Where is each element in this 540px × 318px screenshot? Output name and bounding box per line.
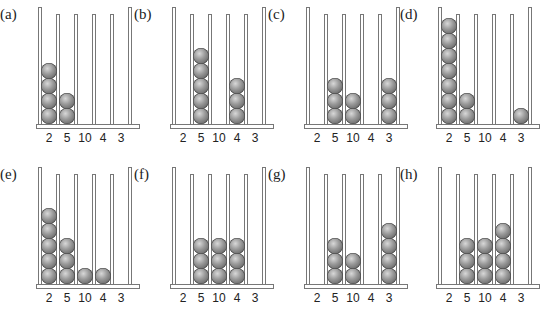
column-label: 4 xyxy=(361,291,381,305)
bead xyxy=(381,108,397,124)
bead xyxy=(41,78,57,94)
abacus-rack: 251043 xyxy=(170,160,274,315)
bead xyxy=(459,268,475,284)
bead xyxy=(59,93,75,109)
abacus-base xyxy=(436,284,540,289)
column-label: 2 xyxy=(307,131,327,145)
abacus-post xyxy=(324,14,328,125)
column-label: 10 xyxy=(343,291,363,305)
bead xyxy=(59,238,75,254)
bead xyxy=(193,268,209,284)
abacus-panel: (c)251043 xyxy=(268,0,403,155)
panel-label: (b) xyxy=(134,6,152,23)
bead xyxy=(477,253,493,269)
abacus-rack: 251043 xyxy=(304,0,408,155)
column-label: 2 xyxy=(39,291,59,305)
bead xyxy=(41,223,57,239)
bead xyxy=(381,223,397,239)
bead xyxy=(459,253,475,269)
column-label: 2 xyxy=(39,131,59,145)
abacus-panel: (g)251043 xyxy=(268,160,403,315)
column-label: 3 xyxy=(511,131,531,145)
abacus-post xyxy=(474,14,478,125)
bead xyxy=(41,108,57,124)
bead xyxy=(381,238,397,254)
column-label: 4 xyxy=(93,291,113,305)
column-label: 2 xyxy=(439,131,459,145)
bead xyxy=(495,253,511,269)
abacus-base xyxy=(36,124,140,129)
bead xyxy=(211,238,227,254)
bead xyxy=(477,238,493,254)
column-label: 3 xyxy=(379,291,399,305)
bead xyxy=(193,238,209,254)
bead xyxy=(193,48,209,64)
panel-label: (g) xyxy=(268,166,286,183)
abacus-post xyxy=(510,14,514,125)
bead xyxy=(441,93,457,109)
column-label: 10 xyxy=(75,131,95,145)
abacus-post xyxy=(172,167,176,285)
column-label: 2 xyxy=(439,291,459,305)
abacus-post xyxy=(244,174,248,285)
bead xyxy=(327,238,343,254)
abacus-panel: (h)251043 xyxy=(400,160,535,315)
column-label: 2 xyxy=(173,131,193,145)
column-label: 3 xyxy=(245,291,265,305)
bead xyxy=(41,268,57,284)
bead xyxy=(193,63,209,79)
abacus-post xyxy=(128,167,132,285)
bead xyxy=(77,268,93,284)
bead xyxy=(211,253,227,269)
bead xyxy=(441,48,457,64)
bead xyxy=(41,238,57,254)
column-label: 4 xyxy=(493,131,513,145)
bead xyxy=(459,93,475,109)
abacus-post xyxy=(244,14,248,125)
column-label: 10 xyxy=(475,291,495,305)
column-label: 5 xyxy=(191,291,211,305)
abacus-post xyxy=(128,7,132,125)
abacus-post xyxy=(342,174,346,285)
bead xyxy=(381,253,397,269)
abacus-post xyxy=(528,7,532,125)
bead xyxy=(495,268,511,284)
panel-label: (a) xyxy=(0,6,17,23)
abacus-post xyxy=(342,14,346,125)
abacus-rack: 251043 xyxy=(436,160,540,315)
abacus-post xyxy=(438,167,442,285)
abacus-post xyxy=(456,174,460,285)
abacus-rack: 251043 xyxy=(436,0,540,155)
bead xyxy=(193,253,209,269)
bead xyxy=(229,253,245,269)
abacus-post xyxy=(92,174,96,285)
abacus-post xyxy=(74,14,78,125)
abacus-post xyxy=(474,174,478,285)
abacus-post xyxy=(190,174,194,285)
panel-label: (h) xyxy=(400,166,418,183)
bead xyxy=(41,253,57,269)
bead xyxy=(381,93,397,109)
bead xyxy=(441,78,457,94)
column-label: 3 xyxy=(111,291,131,305)
column-label: 4 xyxy=(93,131,113,145)
bead xyxy=(441,108,457,124)
panel-label: (f) xyxy=(134,166,149,183)
abacus-post xyxy=(324,174,328,285)
bead xyxy=(41,63,57,79)
column-label: 10 xyxy=(343,131,363,145)
column-label: 3 xyxy=(511,291,531,305)
abacus-post xyxy=(360,174,364,285)
abacus-panel: (d)251043 xyxy=(400,0,535,155)
bead xyxy=(229,268,245,284)
abacus-post xyxy=(226,14,230,125)
bead xyxy=(381,78,397,94)
bead xyxy=(345,108,361,124)
abacus-base xyxy=(36,284,140,289)
bead xyxy=(327,268,343,284)
bead xyxy=(459,108,475,124)
bead xyxy=(95,268,111,284)
abacus-post xyxy=(528,167,532,285)
column-label: 4 xyxy=(227,131,247,145)
bead xyxy=(59,108,75,124)
